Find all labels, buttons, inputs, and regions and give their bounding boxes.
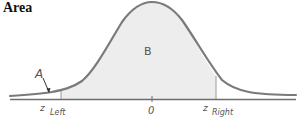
normal-curve-diagram: A B z Left 0 z Right bbox=[0, 0, 299, 121]
label-b: B bbox=[144, 45, 152, 58]
label-a: A bbox=[34, 67, 43, 81]
label-z-right-sub: Right bbox=[212, 108, 234, 117]
label-z-left-sub: Left bbox=[50, 108, 66, 117]
label-z-right: z bbox=[202, 103, 208, 113]
label-zero: 0 bbox=[148, 105, 154, 116]
label-z-left: z bbox=[39, 103, 45, 113]
shaded-area-b bbox=[61, 2, 216, 99]
